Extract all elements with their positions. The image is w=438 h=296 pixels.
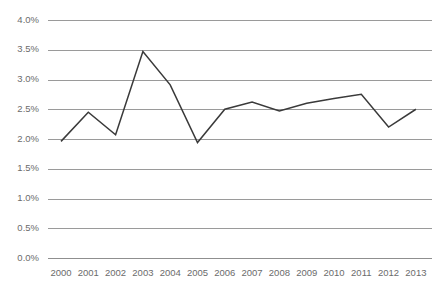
- y-axis-tick-label: 0.5%: [17, 222, 39, 233]
- x-axis-tick-label: 2003: [132, 267, 153, 278]
- data-series-line: [61, 52, 416, 143]
- chart-canvas: 0.0%0.5%1.0%1.5%2.0%2.5%3.0%3.5%4.0% 200…: [0, 0, 438, 296]
- x-axis-tick-label: 2006: [214, 267, 235, 278]
- x-axis-tick-label: 2010: [323, 267, 344, 278]
- y-axis-tick-label: 2.5%: [17, 103, 39, 114]
- x-axis-tick-label: 2001: [78, 267, 99, 278]
- x-axis-tick-label: 2013: [405, 267, 426, 278]
- gridlines: [48, 21, 432, 259]
- y-axis-tick-label: 1.5%: [17, 162, 39, 173]
- x-axis-tick-label: 2009: [296, 267, 317, 278]
- y-axis-tick-label: 4.0%: [17, 14, 39, 25]
- y-axis-tick-label: 3.0%: [17, 73, 39, 84]
- x-axis-tick-label: 2012: [378, 267, 399, 278]
- x-axis-tick-label: 2000: [50, 267, 71, 278]
- x-axis-tick-label: 2011: [351, 267, 371, 278]
- line-chart: 0.0%0.5%1.0%1.5%2.0%2.5%3.0%3.5%4.0% 200…: [0, 0, 438, 296]
- x-axis-tick-label: 2002: [105, 267, 126, 278]
- y-axis-tick-labels: 0.0%0.5%1.0%1.5%2.0%2.5%3.0%3.5%4.0%: [17, 14, 39, 263]
- y-axis-tick-label: 2.0%: [17, 133, 39, 144]
- x-axis-tick-label: 2008: [269, 267, 290, 278]
- x-axis-tick-labels: 2000200120022003200420052006200720082009…: [50, 267, 426, 278]
- y-axis-tick-label: 3.5%: [17, 43, 39, 54]
- y-axis-tick-label: 0.0%: [17, 252, 39, 263]
- x-axis-tick-label: 2005: [187, 267, 208, 278]
- y-axis-tick-label: 1.0%: [17, 192, 39, 203]
- x-axis-tick-label: 2007: [242, 267, 263, 278]
- x-axis-tick-label: 2004: [160, 267, 181, 278]
